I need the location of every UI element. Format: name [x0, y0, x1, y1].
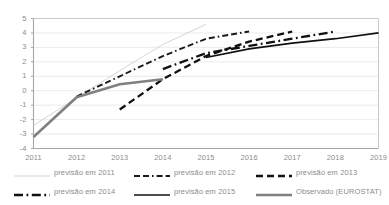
legend-item[interactable]: previsão em 2013 [256, 163, 357, 181]
x-tick-label: 2014 [146, 154, 180, 162]
legend-item[interactable]: previsão em 2015 [134, 182, 235, 200]
legend-label: previsão em 2011 [54, 168, 115, 177]
legend-label: previsão em 2014 [54, 187, 115, 196]
legend-swatch-icon [256, 186, 292, 196]
x-tick-label: 2015 [189, 154, 223, 162]
legend-swatch-icon [14, 167, 50, 177]
x-tick-label: 2016 [232, 154, 266, 162]
y-tick-label: 2 [9, 58, 27, 66]
x-tick-label: 2017 [275, 154, 309, 162]
y-tick-label: 5 [9, 15, 27, 23]
x-tick-label: 2011 [17, 154, 51, 162]
legend-item[interactable]: previsão em 2012 [134, 163, 235, 181]
chart-legend: previsão em 2011previsão em 2012previsão… [0, 163, 389, 205]
x-tick-label: 2013 [103, 154, 137, 162]
legend-swatch-icon [256, 167, 292, 177]
x-tick-label: 2012 [60, 154, 94, 162]
legend-item[interactable]: Observado (EUROSTAT) [256, 182, 382, 200]
x-tick-label: 2019 [362, 154, 389, 162]
y-tick-label: -3 [9, 130, 27, 138]
y-tick-label: -4 [9, 145, 27, 153]
y-tick-label: 0 [9, 87, 27, 95]
legend-swatch-icon [134, 186, 170, 196]
legend-item[interactable]: previsão em 2014 [14, 182, 115, 200]
legend-swatch-icon [134, 167, 170, 177]
y-tick-label: 1 [9, 72, 27, 80]
y-tick-label: 3 [9, 43, 27, 51]
y-tick-label: 4 [9, 29, 27, 37]
y-tick-label: -2 [9, 116, 27, 124]
x-tick-label: 2018 [318, 154, 352, 162]
legend-swatch-icon [14, 186, 50, 196]
plot-background [34, 19, 379, 149]
legend-label: Observado (EUROSTAT) [296, 187, 382, 196]
legend-label: previsão em 2013 [296, 168, 357, 177]
legend-item[interactable]: previsão em 2011 [14, 163, 115, 181]
y-tick-label: -1 [9, 101, 27, 109]
legend-label: previsão em 2012 [174, 168, 235, 177]
legend-label: previsão em 2015 [174, 187, 235, 196]
chart-container: 543210-1-2-3-4 2011201220132014201520162… [0, 0, 389, 205]
